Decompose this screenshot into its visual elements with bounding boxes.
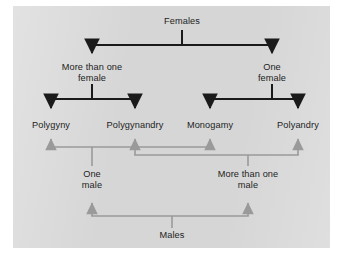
node-monogamy: Monogamy — [187, 120, 233, 131]
node-polygynandry: Polygynandry — [107, 120, 164, 131]
node-males: Males — [159, 230, 184, 241]
female-branch-level-1 — [91, 30, 273, 53]
female-branch-level-2-left — [50, 84, 136, 108]
node-females: Females — [164, 16, 200, 27]
male-root-branch — [91, 203, 249, 228]
node-more-than-one-female: More than one female — [62, 62, 123, 84]
male-branch-one-male — [50, 139, 211, 166]
male-branch-more-than-one-male — [134, 139, 299, 166]
node-polygyny: Polygyny — [32, 120, 70, 131]
node-one-male: One male — [82, 169, 102, 191]
node-polyandry: Polyandry — [277, 120, 319, 131]
node-more-than-one-male: More than one male — [218, 169, 279, 191]
mating-systems-diagram: Females More than one female One female … — [0, 0, 342, 260]
female-branch-level-2-right — [209, 84, 299, 108]
node-one-female: One female — [258, 62, 286, 84]
